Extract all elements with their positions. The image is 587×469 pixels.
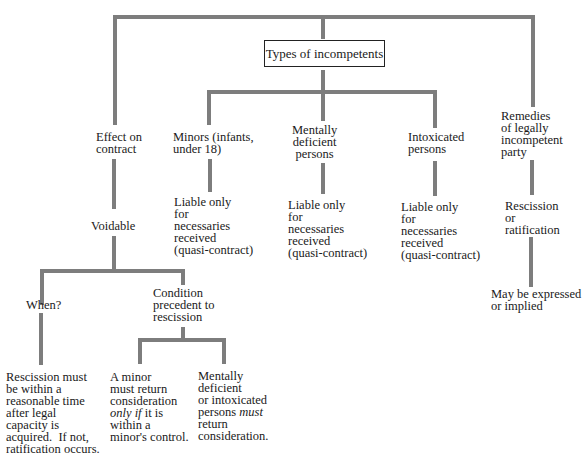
minors-label: Minors (infants, under 18) — [173, 131, 254, 155]
effect-split-connector — [40, 269, 184, 273]
remedies-note: May be expressed or implied — [491, 288, 581, 312]
minors-detail-connector — [208, 159, 212, 192]
root-label: Types of incompetents — [266, 46, 384, 62]
mental-connector — [321, 90, 325, 121]
voidable-up-connector — [112, 159, 116, 209]
when-label: When? — [26, 299, 61, 311]
condition-split-connector — [138, 338, 226, 342]
condition-mental-connector — [222, 338, 226, 364]
remedies-option-connector — [530, 160, 534, 195]
effect-connector — [113, 15, 117, 125]
mental-label: Mentally deficient persons — [292, 124, 337, 160]
remedies-option: Rescission or ratification — [505, 200, 560, 236]
voidable-label: Voidable — [91, 220, 135, 232]
condition-label: Condition precedent to rescission — [153, 287, 214, 323]
root-up-connector — [321, 15, 325, 39]
intox-detail: Liable only for necessaries received (qu… — [401, 201, 480, 261]
remedies-connector — [531, 15, 535, 107]
minors-connector — [207, 90, 211, 125]
minor-text-1: A minor must return consideration — [110, 370, 177, 408]
intox-connector — [433, 90, 437, 128]
intox-label: Intoxicated persons — [408, 131, 464, 155]
remedies-note-connector — [529, 237, 533, 287]
root-down-connector — [321, 70, 325, 92]
condition-minor-detail: A minor must return considerationonly if… — [110, 371, 189, 443]
minors-detail: Liable only for necessaries received (qu… — [174, 196, 253, 256]
intox-detail-connector — [433, 161, 437, 196]
mental-detail: Liable only for necessaries received (qu… — [288, 199, 367, 259]
condition-connector — [181, 269, 185, 285]
when-detail: Rescission must be within a reasonable t… — [6, 371, 100, 455]
root-node: Types of incompetents — [264, 40, 385, 67]
mental-text-italic: must — [239, 405, 263, 419]
mental-detail-connector — [321, 163, 325, 194]
voidable-down-connector — [112, 236, 116, 271]
condition-mental-detail: Mentally deficient or intoxicated person… — [198, 370, 268, 442]
remedies-label: Remedies of legally incompetent party — [501, 110, 563, 158]
mental-text-2: return consideration. — [198, 417, 268, 443]
condition-minor-connector — [138, 338, 142, 364]
effect-label: Effect on contract — [96, 131, 142, 155]
when-detail-connector — [39, 313, 43, 365]
